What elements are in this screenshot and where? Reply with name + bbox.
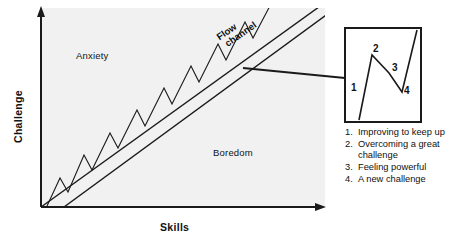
callout-box bbox=[345, 28, 421, 122]
legend-item-number: 1. bbox=[345, 127, 358, 138]
legend-item: 4. A new challenge bbox=[345, 174, 471, 185]
callout-point-2: 2 bbox=[373, 43, 379, 54]
callout-legend-list: 1. Improving to keep up 2. Overcoming a … bbox=[345, 127, 471, 186]
callout-point-3: 3 bbox=[392, 62, 398, 73]
legend-item: 3. Feeling powerful bbox=[345, 162, 471, 173]
x-axis-title: Skills bbox=[160, 221, 189, 233]
legend-item-number: 2. bbox=[345, 139, 358, 150]
legend-item-number: 3. bbox=[345, 162, 358, 173]
legend-item-text: Overcoming a great challenge bbox=[358, 139, 471, 162]
callout-point-1: 1 bbox=[351, 82, 357, 93]
callout-point-4: 4 bbox=[404, 85, 410, 96]
legend-item: 2. Overcoming a great challenge bbox=[345, 139, 471, 162]
flow-channel-diagram: Anxiety Boredom Flow channel Challenge S… bbox=[0, 0, 471, 243]
legend-item-text: Feeling powerful bbox=[358, 162, 471, 173]
legend-item-number: 4. bbox=[345, 174, 358, 185]
legend-item-text: A new challenge bbox=[358, 174, 471, 185]
y-axis-title: Challenge bbox=[12, 90, 24, 143]
legend-item-text: Improving to keep up bbox=[358, 127, 471, 138]
region-label-anxiety: Anxiety bbox=[76, 50, 109, 61]
legend-item: 1. Improving to keep up bbox=[345, 127, 471, 138]
region-label-boredom: Boredom bbox=[213, 147, 253, 158]
